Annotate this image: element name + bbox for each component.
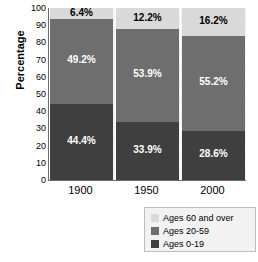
legend-item-label: Ages 20-59 — [163, 225, 209, 237]
y-axis-tick-label: 70 — [16, 55, 46, 66]
bar-segment-value-label: 33.9% — [116, 144, 179, 155]
legend-item-label: Ages 60 and over — [163, 212, 234, 224]
bar-segment-value-label: 55.2% — [182, 76, 245, 87]
bar-segment-value-label: 53.9% — [116, 68, 179, 79]
y-axis-tick-label: 0 — [16, 175, 46, 186]
stacked-bar-chart: Percentage 0102030405060708090100 44.4%4… — [0, 0, 258, 262]
legend-item[interactable]: Ages 20-59 — [151, 225, 255, 237]
legend-swatch-icon — [151, 227, 159, 235]
legend-item[interactable]: Ages 60 and over — [151, 212, 255, 224]
y-axis-tick-label: 60 — [16, 72, 46, 83]
bar-segment-value-label: 28.6% — [182, 148, 245, 159]
vertical-gridline — [180, 8, 181, 180]
y-axis-tick-labels: 0102030405060708090100 — [16, 4, 46, 184]
bar-segment: 33.9% — [116, 122, 179, 180]
y-axis-tick-label: 90 — [16, 20, 46, 31]
x-axis-tick-label: 2000 — [181, 183, 244, 197]
bar-segment: 16.2% — [182, 8, 245, 36]
legend-swatch-icon — [151, 240, 159, 248]
bar-segment: 49.2% — [50, 19, 113, 104]
bar-segment: 12.2% — [116, 8, 179, 29]
x-axis-tick-label: 1950 — [115, 183, 178, 197]
bar-segment: 6.4% — [50, 8, 113, 19]
legend-swatch-icon — [151, 214, 159, 222]
bar-segment: 53.9% — [116, 29, 179, 122]
legend-item-label: Ages 0-19 — [163, 238, 204, 250]
bar-segment: 55.2% — [182, 36, 245, 131]
bar-segment-value-label: 16.2% — [182, 15, 245, 26]
bar-segment-value-label: 49.2% — [50, 54, 113, 65]
bar-group: 33.9%53.9%12.2% — [116, 8, 179, 180]
bar-group: 28.6%55.2%16.2% — [182, 8, 245, 180]
bar-group: 44.4%49.2%6.4% — [50, 8, 113, 180]
vertical-gridline — [246, 8, 247, 180]
bar-segment-value-label: 44.4% — [50, 135, 113, 146]
plot-area: 44.4%49.2%6.4%33.9%53.9%12.2%28.6%55.2%1… — [48, 8, 246, 181]
y-axis-tick-label: 80 — [16, 37, 46, 48]
legend-item[interactable]: Ages 0-19 — [151, 238, 255, 250]
bar-segment-value-label: 6.4% — [50, 7, 113, 18]
y-axis-tick-label: 40 — [16, 106, 46, 117]
y-axis-tick-label: 50 — [16, 89, 46, 100]
y-axis-tick-label: 30 — [16, 123, 46, 134]
bar-segment-value-label: 12.2% — [116, 12, 179, 23]
bar-segment: 44.4% — [50, 104, 113, 180]
y-axis-tick-label: 10 — [16, 158, 46, 169]
y-axis-tick-label: 100 — [16, 3, 46, 14]
chart-legend: Ages 60 and overAges 20-59Ages 0-19 — [144, 207, 256, 252]
x-axis-tick-label: 1900 — [49, 183, 112, 197]
bar-segment: 28.6% — [182, 131, 245, 180]
y-axis-tick-label: 20 — [16, 141, 46, 152]
